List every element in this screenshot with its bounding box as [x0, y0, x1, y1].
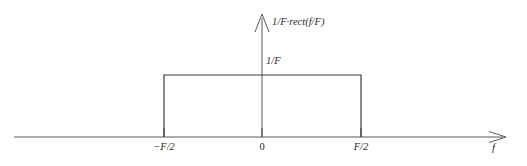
rect-spectrum-figure: 1/F·rect(f/F) 1/F −F/2 0 F/2 f — [0, 0, 527, 166]
x-axis-name-label: f — [492, 142, 495, 153]
tick-label-negative-half-f: −F/2 — [153, 142, 175, 153]
tick-label-positive-half-f: F/2 — [354, 142, 369, 153]
amplitude-label: 1/F — [266, 56, 281, 67]
curve-expression-label: 1/F·rect(f/F) — [272, 17, 324, 28]
tick-label-zero: 0 — [259, 142, 264, 153]
